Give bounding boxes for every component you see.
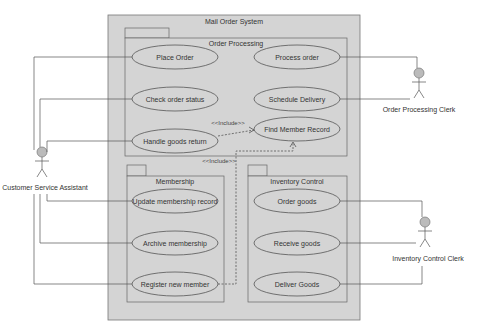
use-case-schedule-delivery[interactable]: Schedule Delivery xyxy=(254,87,340,111)
svg-text:Find Member Record: Find Member Record xyxy=(264,126,330,133)
use-case-update-membership-record[interactable]: Update membership record xyxy=(132,189,218,213)
use-case-handle-goods-return[interactable]: Handle goods return xyxy=(132,129,218,153)
package-tab-order-processing xyxy=(125,28,169,38)
svg-text:Receive goods: Receive goods xyxy=(274,240,321,248)
package-title-order-processing: Order Processing xyxy=(209,40,264,48)
use-case-diagram: Mail Order System Order Processing Membe… xyxy=(0,0,477,333)
svg-text:<<Include>>: <<Include>> xyxy=(202,158,236,164)
use-case-check-order-status[interactable]: Check order status xyxy=(132,87,218,111)
use-case-register-new-member[interactable]: Register new member xyxy=(132,272,218,296)
svg-text:Process order: Process order xyxy=(275,54,319,61)
use-case-receive-goods[interactable]: Receive goods xyxy=(254,231,340,255)
use-case-order-goods[interactable]: Order goods xyxy=(254,189,340,213)
use-case-process-order[interactable]: Process order xyxy=(254,45,340,69)
svg-text:Handle goods return: Handle goods return xyxy=(143,138,207,146)
actor-label-icc: Inventory Control Clerk xyxy=(392,255,464,263)
use-case-archive-membership[interactable]: Archive membership xyxy=(132,231,218,255)
system-title: Mail Order System xyxy=(205,18,263,26)
actor-label-opc: Order Processing Clerk xyxy=(383,106,456,114)
package-title-membership: Membership xyxy=(156,178,195,186)
svg-text:Register new member: Register new member xyxy=(141,281,210,289)
use-case-place-order[interactable]: Place Order xyxy=(132,45,218,69)
svg-text:Place Order: Place Order xyxy=(156,54,194,61)
svg-text:Deliver Goods: Deliver Goods xyxy=(275,281,320,288)
package-tab-inventory xyxy=(248,165,267,176)
use-case-deliver-goods[interactable]: Deliver Goods xyxy=(254,272,340,296)
actor-order-processing-clerk[interactable] xyxy=(412,68,426,98)
actor-inventory-control-clerk[interactable] xyxy=(418,217,432,247)
svg-text:Order goods: Order goods xyxy=(278,198,317,206)
svg-text:Update membership record: Update membership record xyxy=(133,198,218,206)
package-title-inventory: Inventory Control xyxy=(270,178,324,186)
svg-text:<<Include>>: <<Include>> xyxy=(211,120,245,126)
actor-label-csa: Customer Service Assistant xyxy=(2,184,88,191)
package-tab-membership xyxy=(127,165,146,176)
svg-text:Archive membership: Archive membership xyxy=(143,240,207,248)
svg-text:Check order status: Check order status xyxy=(146,96,205,103)
svg-text:Schedule Delivery: Schedule Delivery xyxy=(269,96,326,104)
use-case-find-member-record[interactable]: Find Member Record xyxy=(254,117,340,141)
